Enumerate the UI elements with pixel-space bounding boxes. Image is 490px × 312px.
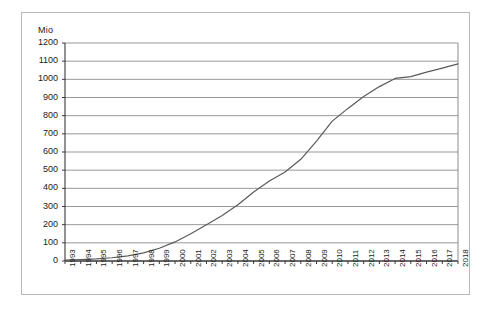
x-axis-tick-label: 2016	[430, 249, 439, 267]
x-axis-tick-label: 2017	[445, 249, 454, 267]
y-axis-tick-label: 900	[24, 92, 58, 102]
x-axis-tick-label: 2011	[351, 250, 360, 267]
x-axis-tick-label: 1997	[131, 249, 140, 267]
x-axis-tick-label: 2010	[335, 249, 344, 267]
x-axis-tick-label: 1995	[99, 249, 108, 267]
data-series-line	[65, 64, 458, 260]
y-axis-tick-label: 300	[24, 201, 58, 211]
y-axis-tick-label: 0	[24, 255, 58, 265]
y-axis-tick-label: 1000	[24, 73, 58, 83]
x-axis-tick-label: 1999	[162, 249, 171, 267]
x-axis-tick-label: 2015	[414, 249, 423, 267]
x-axis-tick-label: 2005	[257, 249, 266, 267]
y-axis-tick-label: 100	[24, 237, 58, 247]
x-axis-tick-label: 2003	[225, 249, 234, 267]
x-axis-tick-label: 2012	[367, 249, 376, 267]
y-axis-tick-label: 1100	[24, 55, 58, 65]
y-axis-tick-label: 200	[24, 219, 58, 229]
x-axis-tick-label: 1998	[147, 249, 156, 267]
x-axis-tick-label: 1994	[84, 249, 93, 267]
x-axis-tick-label: 2004	[241, 249, 250, 267]
y-axis-tick-label: 600	[24, 146, 58, 156]
y-axis-tick-label: 800	[24, 110, 58, 120]
x-axis-tick-label: 1996	[115, 249, 124, 267]
x-axis-tick-label: 2013	[382, 249, 391, 267]
y-axis-tick-label: 700	[24, 128, 58, 138]
y-axis-tick-label: 400	[24, 182, 58, 192]
x-axis-tick-label: 1993	[68, 249, 77, 267]
x-axis-tick-label: 2007	[288, 249, 297, 267]
x-axis-tick-label: 2006	[272, 249, 281, 267]
x-axis-tick-label: 2002	[209, 249, 218, 267]
x-axis-tick-label: 2001	[194, 249, 203, 267]
x-axis-tick-label: 2000	[178, 249, 187, 267]
y-axis-tick-label: 1200	[24, 37, 58, 47]
x-axis-tick-label: 2018	[461, 249, 470, 267]
x-axis-tick-label: 2009	[320, 249, 329, 267]
gridlines	[62, 43, 458, 261]
y-axis-tick-label: 500	[24, 164, 58, 174]
y-axis-unit-label: Mio	[38, 25, 53, 35]
x-axis-tick-label: 2014	[398, 249, 407, 267]
x-axis-tick-label: 2008	[304, 249, 313, 267]
